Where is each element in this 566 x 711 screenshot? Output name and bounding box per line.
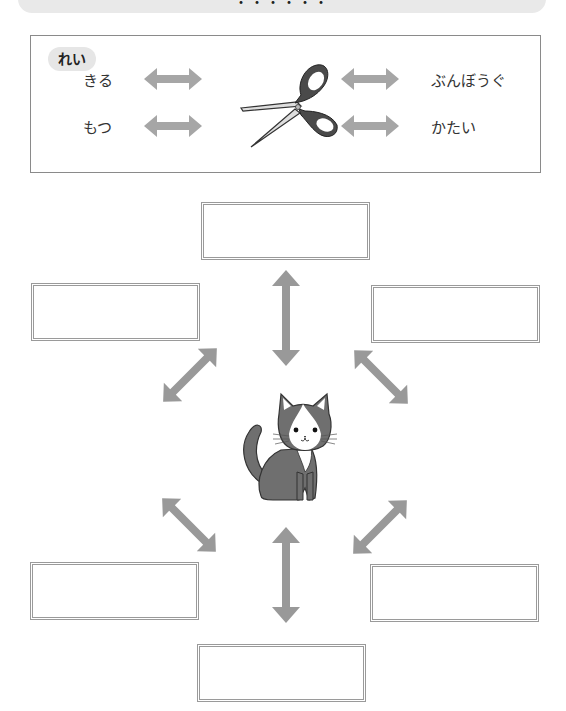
cat-illustration: [233, 392, 341, 504]
double-arrow-horizontal-icon: [341, 115, 399, 137]
double-arrow-horizontal-icon: [144, 68, 202, 90]
scissors-icon: [239, 61, 341, 149]
example-left-word-1: きる: [83, 69, 113, 90]
double-arrow-diagonal-icon: [352, 499, 408, 555]
example-left-word-2: もつ: [83, 116, 112, 137]
double-arrow-horizontal-icon: [341, 68, 399, 90]
double-arrow-diagonal-icon: [162, 347, 218, 403]
answer-box-bottom[interactable]: [197, 644, 366, 702]
answer-box-top[interactable]: [201, 202, 370, 260]
answer-box-upper-right[interactable]: [371, 285, 540, 343]
answer-box-upper-left[interactable]: [31, 283, 200, 341]
header-title: ・・・・・・: [18, 0, 546, 11]
double-arrow-horizontal-icon: [144, 115, 202, 137]
double-arrow-vertical-icon: [272, 527, 300, 623]
answer-box-lower-right[interactable]: [370, 564, 539, 622]
example-box: れい きる もつ ぶんぼうぐ かたい: [30, 35, 541, 173]
double-arrow-vertical-icon: [272, 270, 300, 366]
example-right-word-1: ぶんぼうぐ: [431, 69, 506, 90]
header-bar: ・・・・・・: [18, 0, 546, 13]
double-arrow-diagonal-icon: [353, 349, 409, 405]
answer-box-lower-left[interactable]: [30, 562, 199, 620]
example-right-word-2: かたい: [431, 116, 476, 137]
double-arrow-diagonal-icon: [161, 497, 217, 553]
example-badge: れい: [48, 47, 96, 71]
